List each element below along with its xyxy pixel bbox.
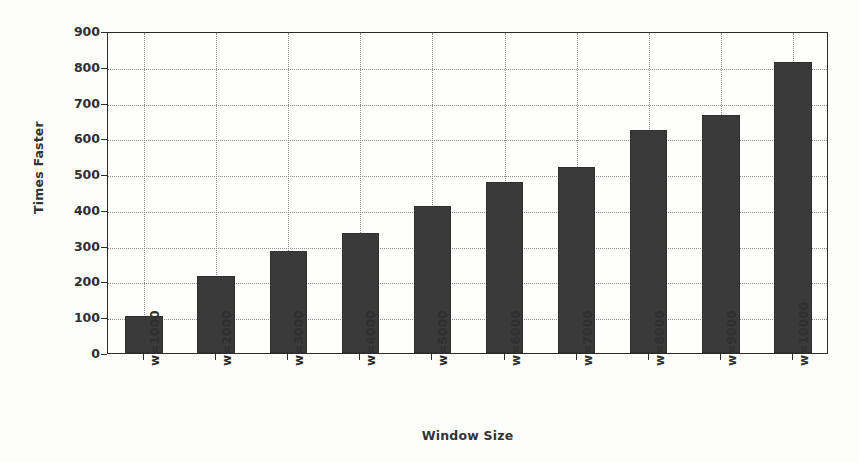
- x-tick-mark: [648, 354, 649, 360]
- x-tick-mark: [792, 354, 793, 360]
- x-tick-label: w=1000: [148, 310, 162, 366]
- y-tick-mark: [101, 175, 107, 176]
- y-tick-mark: [101, 318, 107, 319]
- y-tick-mark: [101, 354, 107, 355]
- y-tick-mark: [101, 282, 107, 283]
- y-axis-tick-labels: 0100200300400500600700800900: [55, 32, 100, 354]
- y-tick-label: 800: [55, 62, 100, 75]
- x-tick-label: w=7000: [581, 310, 595, 366]
- x-axis-title: Window Size: [107, 428, 828, 443]
- x-tick-mark: [287, 354, 288, 360]
- x-tick-mark: [359, 354, 360, 360]
- x-tick-label: w=2000: [220, 310, 234, 366]
- x-tick-mark: [431, 354, 432, 360]
- x-tick-label: w=8000: [653, 310, 667, 366]
- y-tick-label: 700: [55, 97, 100, 110]
- x-tick-label: w=9000: [725, 310, 739, 366]
- x-tick-mark: [143, 354, 144, 360]
- x-tick-label: w=4000: [364, 310, 378, 366]
- y-tick-label: 900: [55, 26, 100, 39]
- y-tick-mark: [101, 68, 107, 69]
- y-tick-label: 100: [55, 312, 100, 325]
- x-tick-mark: [576, 354, 577, 360]
- y-tick-label: 0: [55, 348, 100, 361]
- plot-area: [107, 32, 828, 354]
- bar-chart-figure: Times Faster 010020030040050060070080090…: [0, 0, 859, 463]
- x-tick-label: w=10000: [797, 302, 811, 366]
- y-tick-label: 400: [55, 205, 100, 218]
- x-tick-label: w=5000: [436, 310, 450, 366]
- y-tick-mark: [101, 139, 107, 140]
- y-tick-label: 300: [55, 240, 100, 253]
- y-tick-mark: [101, 247, 107, 248]
- x-tick-label: w=3000: [292, 310, 306, 366]
- x-tick-label: w=6000: [509, 310, 523, 366]
- y-tick-mark: [101, 32, 107, 33]
- x-tick-mark: [720, 354, 721, 360]
- x-tick-mark: [504, 354, 505, 360]
- y-tick-label: 500: [55, 169, 100, 182]
- x-tick-mark: [215, 354, 216, 360]
- y-tick-label: 200: [55, 276, 100, 289]
- y-tick-mark: [101, 211, 107, 212]
- x-gridline: [144, 33, 145, 353]
- y-tick-mark: [101, 104, 107, 105]
- y-tick-label: 600: [55, 133, 100, 146]
- y-axis-title: Times Faster: [31, 98, 46, 238]
